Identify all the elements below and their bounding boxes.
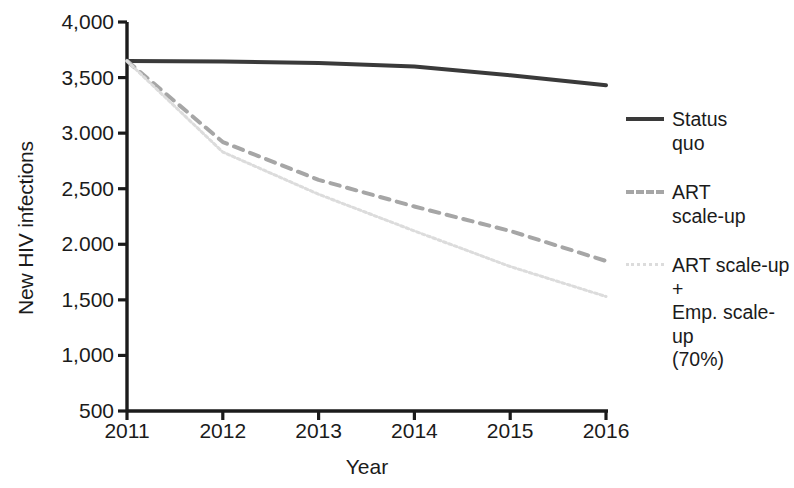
x-axis-tick-label: 2015 [465, 420, 555, 441]
x-axis-tick-label: 2014 [369, 420, 459, 441]
y-axis-tick-label: 1,500 [28, 289, 114, 310]
legend-label: ART scale-up [672, 181, 794, 228]
x-axis-tick-label: 2013 [274, 420, 364, 441]
series-line-2 [127, 61, 606, 297]
y-axis-tick-label: 500 [28, 400, 114, 421]
series-line-1 [127, 61, 606, 261]
y-axis-tick-label: 4,000 [28, 11, 114, 32]
legend: Status quoART scale-upART scale-up + Emp… [626, 108, 794, 398]
y-axis-tick-label: 3.000 [28, 122, 114, 143]
legend-entry: ART scale-up + Emp. scale-up (70%) [626, 254, 794, 372]
y-axis-tick-label: 3,500 [28, 67, 114, 88]
legend-entry: Status quo [626, 108, 794, 155]
y-axis-tick-labels: 4,0003,5003.0002,5002.0001,5001,000500 [28, 0, 114, 488]
series-line-0 [127, 61, 606, 85]
x-axis-tick-label: 2012 [178, 420, 268, 441]
x-axis-title: Year [128, 455, 606, 479]
y-axis-tick-label: 1,000 [28, 344, 114, 365]
y-axis-tick-label: 2.000 [28, 233, 114, 254]
legend-swatch-solid-icon [626, 117, 664, 121]
legend-label: Status quo [672, 108, 794, 155]
y-axis-tick-label: 2,500 [28, 178, 114, 199]
x-axis-tick-label: 2011 [82, 420, 172, 441]
legend-label: ART scale-up + Emp. scale-up (70%) [672, 254, 794, 372]
x-axis-tick-label: 2016 [561, 420, 651, 441]
hiv-infections-line-chart: New HIV infections 4,0003,5003.0002,5002… [0, 0, 794, 488]
legend-swatch-dashed-icon [626, 190, 664, 194]
legend-swatch-dotted-icon [626, 263, 664, 266]
legend-entry: ART scale-up [626, 181, 794, 228]
